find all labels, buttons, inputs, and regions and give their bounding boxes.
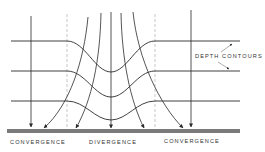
wave-rays bbox=[31, 10, 191, 128]
shoreline bbox=[7, 129, 240, 133]
wave-refraction-diagram bbox=[0, 0, 265, 152]
convergence-left-label: CONVERGENCE bbox=[10, 139, 66, 145]
convergence-right-label: CONVERGENCE bbox=[164, 138, 220, 144]
divergence-label: DIVERGENCE bbox=[89, 139, 137, 145]
depth-contours-label: DEPTH CONTOURS bbox=[195, 53, 263, 59]
